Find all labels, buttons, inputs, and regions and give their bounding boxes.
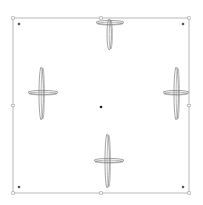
resize-handle[interactable]: [12, 192, 15, 195]
propeller-shape-bottom: [94, 134, 124, 188]
corner-dot: [182, 186, 185, 189]
corner-dot: [18, 186, 21, 189]
resize-handle[interactable]: [12, 104, 15, 107]
bounding-frame: [12, 17, 191, 195]
propeller-shape-left: [28, 67, 58, 120]
center-point: [100, 106, 103, 109]
propeller-shapes: [28, 19, 189, 188]
corner-dot: [18, 23, 21, 26]
resize-handle[interactable]: [100, 17, 103, 20]
resize-handle[interactable]: [100, 192, 103, 195]
resize-handle[interactable]: [188, 192, 191, 195]
corner-dot: [182, 23, 185, 26]
resize-handle[interactable]: [188, 104, 191, 107]
diagram-canvas: [0, 0, 203, 205]
resize-handle[interactable]: [12, 17, 15, 20]
propeller-shape-right: [163, 67, 189, 120]
propeller-shape-top: [96, 19, 124, 50]
resize-handle[interactable]: [188, 17, 191, 20]
center-dot: [100, 106, 103, 109]
